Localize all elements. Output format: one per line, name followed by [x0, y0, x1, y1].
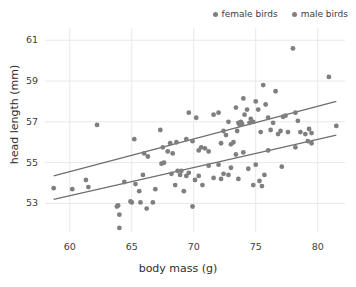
data-point: [150, 200, 155, 205]
data-point: [258, 130, 263, 135]
data-point: [221, 171, 226, 176]
data-point: [138, 200, 143, 205]
data-point: [170, 151, 175, 156]
data-point: [219, 141, 224, 146]
data-point: [200, 183, 205, 188]
data-point: [253, 162, 258, 167]
data-point: [178, 172, 183, 177]
x-axis-tick-label: 80: [303, 242, 333, 252]
data-point: [235, 129, 240, 134]
data-point: [261, 83, 266, 88]
x-axis-tick-label: 75: [241, 242, 271, 252]
data-point: [122, 180, 127, 185]
data-point: [173, 183, 178, 188]
data-point: [326, 75, 331, 80]
data-point: [242, 112, 247, 117]
data-point: [279, 164, 284, 169]
data-point: [253, 99, 258, 104]
data-point: [181, 189, 186, 194]
data-point: [234, 152, 239, 157]
x-axis-tick-label: 60: [55, 242, 85, 252]
x-axis-title: body mass (g): [0, 262, 356, 275]
data-point: [132, 137, 137, 142]
data-point: [194, 115, 199, 120]
data-point: [226, 172, 231, 177]
data-point: [117, 226, 122, 231]
data-point: [179, 168, 184, 173]
data-point: [246, 166, 251, 171]
data-point: [262, 172, 267, 177]
data-point: [186, 110, 191, 115]
data-point: [169, 171, 174, 176]
y-axis-tick-label: 53: [12, 198, 38, 208]
y-axis-title: head length (mm): [8, 45, 21, 185]
x-axis-tick-label: 65: [117, 242, 147, 252]
data-point: [129, 200, 134, 205]
data-point: [251, 183, 256, 188]
data-point: [221, 129, 226, 134]
data-point: [271, 120, 276, 125]
data-point: [190, 139, 195, 144]
data-point: [286, 130, 291, 135]
data-point: [206, 163, 211, 168]
data-point: [84, 178, 89, 183]
data-point: [293, 145, 298, 150]
data-point: [241, 96, 246, 101]
data-point: [162, 160, 167, 165]
data-point: [229, 165, 234, 170]
data-point: [266, 148, 271, 153]
data-point: [241, 150, 246, 155]
data-point: [240, 121, 245, 126]
data-point: [190, 204, 195, 209]
y-axis-tick-label: 61: [12, 35, 38, 45]
data-point: [116, 203, 121, 208]
data-point: [141, 172, 146, 177]
data-point: [133, 182, 138, 187]
data-point: [184, 137, 189, 142]
data-point: [234, 105, 239, 110]
data-point: [309, 131, 314, 136]
data-point: [291, 46, 296, 51]
data-point: [256, 107, 261, 112]
data-point: [260, 184, 265, 189]
data-point: [211, 112, 216, 117]
data-point: [293, 110, 298, 115]
data-point: [226, 119, 231, 124]
data-point: [203, 146, 208, 151]
data-point: [224, 133, 229, 138]
data-point: [145, 154, 150, 159]
data-point: [268, 128, 273, 133]
data-point: [86, 185, 91, 190]
data-point: [283, 113, 288, 118]
data-point: [273, 89, 278, 94]
data-point: [251, 119, 256, 124]
x-axis-tick-label: 70: [179, 242, 209, 252]
data-point: [142, 151, 147, 156]
data-point: [216, 162, 221, 167]
data-point: [174, 140, 179, 145]
data-point: [95, 123, 100, 128]
data-point: [257, 179, 262, 184]
data-point: [266, 115, 271, 120]
data-point: [117, 212, 122, 217]
data-point: [307, 127, 312, 132]
data-point: [211, 176, 216, 181]
data-point: [298, 130, 303, 135]
data-point: [168, 141, 173, 146]
data-point: [158, 128, 163, 133]
data-point: [51, 186, 56, 191]
data-point: [278, 129, 283, 134]
data-point: [153, 187, 158, 192]
data-point: [231, 140, 236, 145]
data-point: [206, 149, 211, 154]
data-point: [160, 145, 165, 150]
data-point: [295, 118, 300, 123]
data-point: [165, 149, 170, 154]
data-point: [219, 177, 224, 182]
data-point: [263, 102, 268, 107]
data-point: [144, 206, 149, 211]
data-point: [334, 124, 339, 129]
trendline: [54, 135, 337, 199]
data-point: [216, 110, 221, 115]
data-point: [309, 141, 314, 146]
